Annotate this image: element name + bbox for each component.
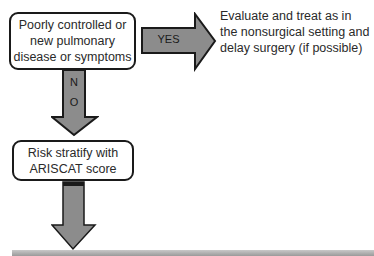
decision-box-text: Poorly controlled or new pulmonary disea…	[11, 17, 134, 65]
no-label-o: O	[63, 96, 85, 108]
outcome-yes-text: Evaluate and treat as in the nonsurgical…	[220, 8, 370, 56]
yes-label: YES	[142, 33, 195, 45]
process-box-ariscat: Risk stratify with ARISCAT score	[12, 140, 134, 181]
process-box-text: Risk stratify with ARISCAT score	[14, 145, 132, 177]
no-label-n: N	[63, 76, 85, 88]
decision-box-pulmonary-disease: Poorly controlled or new pulmonary disea…	[9, 12, 136, 70]
down-arrow-icon	[51, 181, 97, 251]
bottom-divider	[12, 250, 374, 256]
